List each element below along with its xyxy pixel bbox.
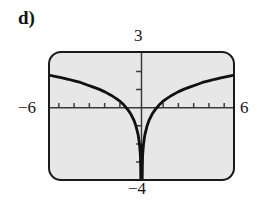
curve-right-branch — [142, 75, 233, 179]
part-label: d) — [18, 8, 35, 27]
calculator-screen — [48, 51, 235, 181]
x-min-label: −6 — [18, 99, 36, 116]
y-min-label: −4 — [128, 180, 146, 197]
y-max-label: 3 — [134, 27, 143, 44]
x-max-label: 6 — [240, 99, 249, 116]
curve-left-branch — [50, 75, 141, 179]
plot-svg — [50, 53, 233, 179]
figure-container: d) — [0, 0, 262, 203]
